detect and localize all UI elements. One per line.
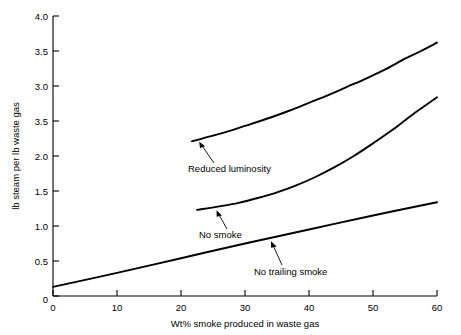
- y-tick-label-7: 3.5: [35, 46, 48, 57]
- series-line-no-trailing-smoke: [53, 202, 437, 287]
- y-tick-label-2: 1.0: [35, 221, 48, 232]
- y-tick-label-4: 2.0: [35, 151, 48, 162]
- chart-figure: 0 0.5 1.0 1.5 2.0 3.5 3.0 3.5 4.0 0 10 2…: [0, 0, 461, 335]
- x-tick-label-6: 60: [432, 302, 443, 313]
- annotation-arrow-head-reduced-luminosity: [199, 142, 205, 148]
- annotation-reduced-luminosity: Reduced luminosity: [188, 142, 271, 174]
- y-axis-tick-labels: 0 0.5 1.0 1.5 2.0 3.5 3.0 3.5 4.0: [35, 11, 48, 306]
- x-tick-label-5: 50: [368, 302, 379, 313]
- series-line-reduced-luminosity: [192, 43, 437, 142]
- x-tick-label-1: 10: [112, 302, 123, 313]
- annotation-arrow-head-no-trailing-smoke: [271, 241, 277, 248]
- x-axis-ticks: [53, 290, 437, 296]
- annotation-no-smoke: No smoke: [199, 210, 242, 240]
- annotation-label-no-smoke: No smoke: [199, 229, 242, 240]
- y-axis-title: lb steam per lb waste gas: [10, 102, 21, 210]
- y-tick-label-5: 3.5: [35, 116, 48, 127]
- chart-plot-area: 0 0.5 1.0 1.5 2.0 3.5 3.0 3.5 4.0 0 10 2…: [0, 0, 461, 335]
- x-tick-label-4: 40: [304, 302, 315, 313]
- x-tick-label-3: 30: [240, 302, 251, 313]
- y-tick-label-0: 0: [43, 294, 48, 305]
- x-axis-title: Wt% smoke produced in waste gas: [171, 318, 320, 329]
- x-axis-tick-labels: 0 10 20 30 40 50 60: [50, 302, 442, 313]
- y-axis-ticks: [53, 16, 59, 296]
- y-tick-label-1: 0.5: [35, 256, 48, 267]
- x-tick-label-0: 0: [50, 302, 55, 313]
- annotation-label-no-trailing-smoke: No trailing smoke: [254, 266, 327, 277]
- x-tick-label-2: 20: [176, 302, 187, 313]
- annotation-label-reduced-luminosity: Reduced luminosity: [188, 163, 271, 174]
- series-line-no-smoke: [197, 97, 437, 210]
- y-tick-label-8: 4.0: [35, 11, 48, 22]
- y-tick-label-6: 3.0: [35, 81, 48, 92]
- annotation-arrow-head-no-smoke: [217, 210, 222, 217]
- y-tick-label-3: 1.5: [35, 186, 48, 197]
- annotation-no-trailing-smoke: No trailing smoke: [254, 241, 327, 277]
